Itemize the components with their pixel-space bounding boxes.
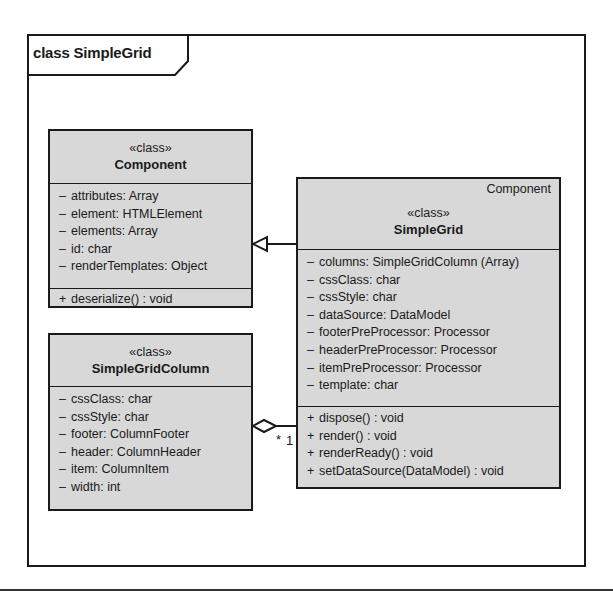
page-divider — [0, 589, 613, 591]
relationship-connectors — [0, 0, 613, 600]
multiplicity-part: * — [276, 432, 281, 447]
hollow-triangle-icon — [253, 237, 267, 251]
hollow-diamond-icon — [253, 420, 276, 432]
multiplicity-whole: 1 — [286, 433, 293, 448]
generalization-arrow[interactable] — [253, 237, 296, 251]
aggregation-connector[interactable] — [253, 420, 296, 432]
